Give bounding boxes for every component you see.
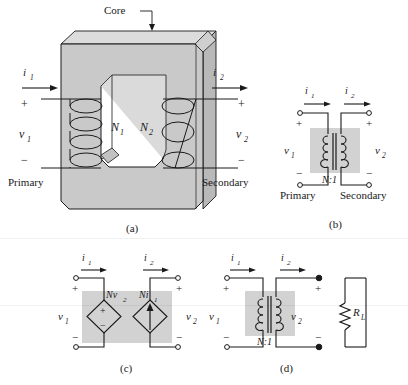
- i2-label: i: [213, 66, 216, 78]
- i1-label: i: [23, 66, 26, 78]
- secondary-minus-a: −: [238, 153, 245, 167]
- n1-label: N: [110, 120, 120, 134]
- turns-ratio-b: N:1: [321, 174, 337, 185]
- i2-subscript-d: 2: [287, 259, 291, 267]
- panel-a: Core: [8, 4, 249, 235]
- vsource-subscript-c: 2: [123, 296, 127, 304]
- n2-subscript: 2: [149, 128, 153, 137]
- figure-transformer-models: Core: [0, 0, 408, 385]
- current-i1-b: i 1: [304, 85, 331, 107]
- primary-plus-b: +: [296, 117, 302, 129]
- isource-subscript-c: 1: [154, 296, 158, 304]
- isource-label-c: Ni: [138, 289, 149, 300]
- scan-artifact-line: [0, 305, 408, 306]
- primary-minus-d: −: [223, 331, 229, 343]
- source-plus-c: +: [100, 305, 106, 316]
- vsource-label-c: Nv: [105, 289, 118, 300]
- v2-subscript-d: 2: [298, 317, 302, 326]
- primary-label-a: Primary: [8, 176, 44, 188]
- terminal-b-bottom-right: [367, 183, 372, 188]
- primary-label-b: Primary: [280, 189, 316, 201]
- i2-label-b: i: [345, 85, 348, 96]
- terminal-b-bottom-left: [298, 183, 303, 188]
- i1-label-d: i: [231, 252, 234, 263]
- current-i2-b: i 2: [344, 85, 371, 107]
- terminal-c-top-left: [74, 276, 79, 281]
- secondary-plus-a: +: [238, 97, 245, 111]
- secondary-minus-c: −: [176, 331, 182, 343]
- v2-label-a: v: [236, 127, 242, 141]
- v2-label-b: v: [375, 144, 380, 156]
- caption-b: (b): [329, 218, 342, 231]
- current-i1-a: i 1: [22, 66, 58, 91]
- secondary-label-a: Secondary: [202, 176, 249, 188]
- v2-label-d: v: [291, 310, 296, 322]
- v2-subscript-c: 2: [193, 317, 197, 326]
- terminal-c-bottom-left: [74, 345, 79, 350]
- turns-ratio-d: N:1: [256, 336, 272, 347]
- v1-subscript-c: 1: [65, 317, 69, 326]
- v2-subscript-b: 2: [382, 151, 386, 160]
- caption-d: (d): [280, 362, 293, 375]
- i1-subscript-c: 1: [88, 259, 92, 267]
- v1-label-d: v: [209, 310, 214, 322]
- primary-plus-c: +: [72, 282, 78, 294]
- load-subscript-d: L: [360, 313, 365, 322]
- secondary-minus-b: −: [366, 167, 372, 179]
- source-minus-c: −: [100, 320, 106, 331]
- n1-subscript: 1: [120, 128, 124, 137]
- core-top-face: [61, 31, 216, 44]
- i1-label-b: i: [305, 85, 308, 96]
- i1-subscript-b: 1: [311, 92, 315, 100]
- i1-arrowhead-b: [324, 102, 331, 107]
- secondary-plus-b: +: [366, 117, 372, 129]
- panel-c: + − Nv 2 Ni 1 i 1 i 2: [58, 252, 197, 375]
- node-d-top-right: [316, 275, 322, 281]
- v1-subscript-b: 1: [291, 151, 295, 160]
- core-callout-arrowhead: [149, 24, 155, 31]
- figure-canvas: Core: [0, 0, 408, 385]
- i2-subscript: 2: [220, 73, 224, 82]
- panel-b: i 1 i 2 + − + − v 1 v 2 N:1 Primary Seco…: [280, 85, 387, 231]
- secondary-minus-d: −: [315, 331, 321, 343]
- caption-c: (c): [120, 362, 133, 375]
- primary-minus-b: −: [296, 167, 302, 179]
- v1-subscript-a: 1: [27, 135, 31, 144]
- terminal-d-bottom-left: [225, 345, 230, 350]
- secondary-plus-d: +: [315, 282, 321, 294]
- i1-arrowhead: [50, 85, 58, 91]
- caption-a: (a): [126, 222, 139, 235]
- i1-subscript: 1: [30, 73, 34, 82]
- i2-arrowhead-b: [364, 102, 371, 107]
- i1-subscript-d: 1: [237, 259, 241, 267]
- panel-d: R L i 1 i 2 + − + − v 1 v 2: [209, 252, 366, 375]
- v1-label-c: v: [58, 310, 63, 322]
- primary-plus-a: +: [21, 97, 28, 111]
- secondary-plus-c: +: [176, 282, 182, 294]
- core-callout-line: [140, 11, 152, 26]
- node-d-bottom-right: [316, 344, 322, 350]
- i2-label-d: i: [281, 252, 284, 263]
- core-callout: Core: [104, 4, 155, 31]
- primary-plus-d: +: [223, 282, 229, 294]
- v2-subscript-a: 2: [244, 135, 248, 144]
- i1-arrowhead-c: [100, 268, 107, 273]
- primary-minus-a: −: [21, 153, 28, 167]
- core-body: [61, 31, 216, 209]
- v1-label-b: v: [284, 144, 289, 156]
- i2-arrowhead-d: [299, 268, 306, 273]
- terminal-d-top-left: [225, 276, 230, 281]
- current-i2-d: i 2: [280, 252, 306, 273]
- i1-arrowhead-d: [249, 268, 256, 273]
- i2-subscript-b: 2: [351, 92, 355, 100]
- terminal-c-top-right: [176, 276, 181, 281]
- current-i1-d: i 1: [230, 252, 256, 273]
- load-label-d: R: [352, 306, 360, 318]
- terminal-b-top-right: [367, 111, 372, 116]
- primary-minus-c: −: [72, 331, 78, 343]
- terminal-b-top-left: [298, 111, 303, 116]
- i2-arrowhead: [240, 85, 248, 91]
- terminal-c-bottom-right: [176, 345, 181, 350]
- i2-subscript-c: 2: [150, 259, 154, 267]
- n2-label: N: [139, 120, 149, 134]
